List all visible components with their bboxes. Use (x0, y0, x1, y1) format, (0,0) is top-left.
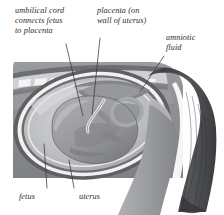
label-amniotic-fluid: amniotic fluid (166, 33, 195, 53)
label-uterus: uterus (79, 192, 100, 202)
label-fetus: fetus (19, 192, 35, 202)
label-umbilical-cord: umbilical cord connects fetus to placent… (15, 6, 64, 37)
label-placenta: placenta (on wall of uterus) (97, 6, 146, 26)
